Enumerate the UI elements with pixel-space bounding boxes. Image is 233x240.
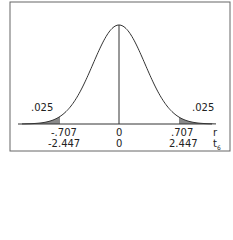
r-left-label: -.707 [51, 128, 77, 138]
left-tail-area-label: .025 [31, 103, 53, 113]
t-right-label: 2.447 [169, 139, 198, 149]
t-center-label: 0 [116, 139, 122, 149]
r-center-label: 0 [116, 128, 122, 138]
right-tail-area-label: .025 [192, 103, 214, 113]
r-axis-label: r [213, 128, 217, 138]
r-right-label: .707 [171, 128, 193, 138]
t-left-label: -2.447 [48, 139, 80, 149]
t-axis-label: t6 [213, 139, 221, 153]
